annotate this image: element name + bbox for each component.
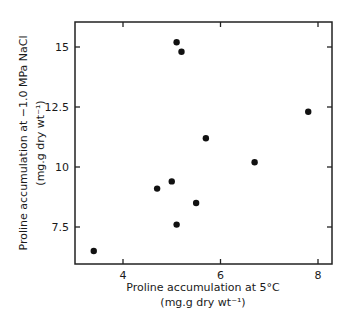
data-point	[178, 49, 184, 55]
data-point	[169, 178, 175, 184]
data-point	[251, 159, 257, 165]
data-point	[203, 135, 209, 141]
y-tick-label: 15	[55, 41, 69, 54]
x-tick-label: 8	[315, 269, 322, 282]
y-tick-label: 7.5	[52, 221, 70, 234]
data-point	[154, 185, 160, 191]
y-tick-label: 10	[55, 161, 69, 174]
y-axis-ticks: 7.51012.515	[45, 41, 333, 234]
data-point	[305, 109, 311, 115]
plot-frame	[75, 22, 332, 264]
data-point	[91, 248, 97, 254]
data-point	[173, 221, 179, 227]
y-tick-label: 12.5	[45, 101, 70, 114]
x-axis-ticks: 468	[120, 22, 322, 282]
y-axis-title: Proline accumulation at −1.0 MPa NaCl	[17, 36, 30, 251]
x-axis-title: Proline accumulation at 5°C	[126, 281, 280, 294]
data-points	[91, 39, 312, 254]
data-point	[193, 200, 199, 206]
x-axis-units: (mg.g dry wt⁻¹)	[160, 296, 245, 309]
y-axis-units: (mg.g dry wt⁻¹)	[34, 100, 47, 185]
scatter-chart: 468 7.51012.515 Proline accumulation at …	[0, 0, 349, 322]
data-point	[173, 39, 179, 45]
